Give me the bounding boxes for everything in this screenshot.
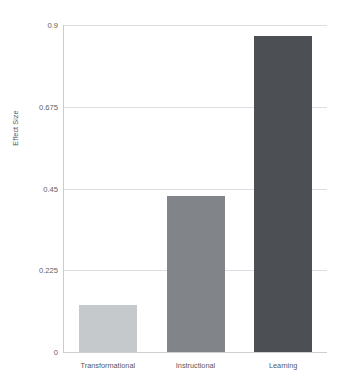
bar-instructional[interactable] <box>167 196 225 352</box>
y-tick-label: 0 <box>0 348 58 357</box>
gridline <box>64 25 327 26</box>
y-tick-label: 0.675 <box>0 103 58 112</box>
plot-area <box>64 25 327 352</box>
x-tick-label: Transformational <box>64 361 152 370</box>
x-tick-label: Learning <box>239 361 327 370</box>
y-tick-label: 0.9 <box>0 21 58 30</box>
bar-learning[interactable] <box>254 36 312 352</box>
x-tick-label: Instructional <box>152 361 240 370</box>
y-axis-title: Effect Size <box>11 88 23 168</box>
bar-chart: Effect Size 00.2250.450.6750.9 Transform… <box>0 0 337 392</box>
y-tick-label: 0.45 <box>0 185 58 194</box>
bar-transformational[interactable] <box>79 305 137 352</box>
gridline <box>64 352 327 353</box>
y-tick-label: 0.225 <box>0 266 58 275</box>
